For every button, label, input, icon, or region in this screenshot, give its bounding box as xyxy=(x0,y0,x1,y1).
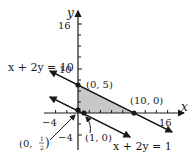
point-0-half xyxy=(75,107,80,112)
svg-text:2: 2 xyxy=(40,144,44,151)
svg-text:(0,: (0, xyxy=(19,138,32,149)
pointer-1-0 xyxy=(86,117,91,133)
line-label-1: x + 2y = 1 xyxy=(113,140,172,153)
point-label-10-0: (10, 0) xyxy=(130,95,163,106)
tick-label-y-neg4: −4 xyxy=(58,132,73,143)
svg-text:): ) xyxy=(45,136,50,150)
point-10-0 xyxy=(131,110,136,115)
point-1-0 xyxy=(81,110,86,115)
point-label-0-5: (0, 5) xyxy=(86,79,113,90)
point-label-0-half: (0, 1 2 ) xyxy=(19,135,50,151)
point-0-5 xyxy=(75,82,80,87)
chart: y x 16 10 −4 −4 16 x + 2y = 10 x + 2y = … xyxy=(0,0,192,160)
x-axis-label: x xyxy=(181,100,188,114)
svg-text:1: 1 xyxy=(40,135,44,142)
tick-label-x-neg4: −4 xyxy=(42,117,57,128)
tick-label-x-16: 16 xyxy=(159,117,172,128)
line-label-10: x + 2y = 10 xyxy=(8,61,74,74)
y-axis-label: y xyxy=(66,6,74,20)
tick-label-y-16: 16 xyxy=(58,20,71,31)
point-label-1-0: (1, 0) xyxy=(85,132,112,143)
